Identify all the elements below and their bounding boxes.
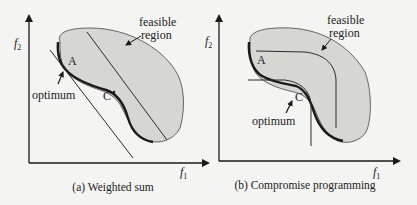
point-c-marker xyxy=(113,91,116,94)
feasible-region-label-line2: region xyxy=(329,26,360,40)
optimum-pointer-arrow xyxy=(286,101,292,113)
point-a-label: A xyxy=(257,53,266,67)
point-c-label: C xyxy=(295,90,303,104)
optimum-label: optimum xyxy=(32,88,76,102)
feasible-region-shape xyxy=(59,28,183,142)
point-c-label: C xyxy=(103,89,111,103)
optimum-label: optimum xyxy=(252,114,296,128)
panel-compromise-programming: f2 f1 feasible region A C optimum (b) Co… xyxy=(205,13,399,192)
feasible-region-label-line1: feasible xyxy=(139,15,176,29)
panel-caption: (a) Weighted sum xyxy=(72,181,153,194)
y-axis-label: f2 xyxy=(205,34,212,50)
diagram-canvas: f2 f1 feasible region A C optimum (a) We… xyxy=(0,0,417,205)
panel-caption: (b) Compromise programming xyxy=(234,179,375,192)
point-a-label: A xyxy=(68,54,77,68)
optimum-pointer-arrow xyxy=(58,72,63,84)
feasible-region-label-line1: feasible xyxy=(327,13,364,27)
panel-weighted-sum: f2 f1 feasible region A C optimum (a) We… xyxy=(14,15,208,194)
y-axis-label: f2 xyxy=(14,36,21,52)
feasible-region-label-line2: region xyxy=(141,28,172,42)
x-axis-label: f1 xyxy=(180,165,187,181)
